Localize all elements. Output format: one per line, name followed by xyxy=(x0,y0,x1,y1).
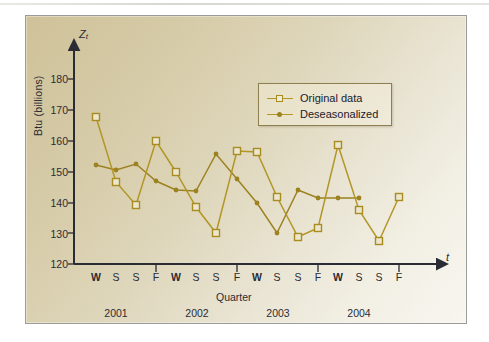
series-original-data-markers xyxy=(93,114,403,245)
x-tick-label: S xyxy=(288,271,308,283)
figure-page: Btu (billions) Zt t 180 170 160 150 140 … xyxy=(0,0,489,342)
legend-entry-deseasonalized: Deseasonalized xyxy=(267,106,378,122)
x-tick-label: F xyxy=(227,271,247,283)
x-tick-label: F xyxy=(389,271,409,283)
x-tick-label: S xyxy=(369,271,389,283)
year-label: 2004 xyxy=(329,307,389,319)
x-tick-label: S xyxy=(106,271,126,283)
year-label: 2003 xyxy=(248,307,308,319)
chart-panel: Btu (billions) Zt t 180 170 160 150 140 … xyxy=(25,15,467,324)
x-tick-label: S xyxy=(186,271,206,283)
legend-entry-original-data: Original data xyxy=(267,90,362,106)
year-label: 2002 xyxy=(167,307,227,319)
x-tick-label: W xyxy=(86,271,106,283)
x-tick-label: S xyxy=(206,271,226,283)
year-label: 2001 xyxy=(86,307,146,319)
legend-label: Original data xyxy=(300,92,362,104)
x-tick-label: S xyxy=(126,271,146,283)
x-tick-label: W xyxy=(166,271,186,283)
x-tick-label: S xyxy=(267,271,287,283)
filled-dot-marker-icon xyxy=(267,109,293,120)
x-axis-title: Quarter xyxy=(216,291,252,303)
series-deseasonalized-markers xyxy=(94,152,362,236)
page-top-rule xyxy=(0,3,489,5)
x-tick-label: S xyxy=(349,271,369,283)
x-tick-label: F xyxy=(308,271,328,283)
x-tick-label: W xyxy=(328,271,348,283)
series-original-data-line xyxy=(96,117,399,241)
open-square-marker-icon xyxy=(267,93,293,104)
chart-legend: Original data Deseasonalized xyxy=(258,83,392,126)
legend-label: Deseasonalized xyxy=(300,108,378,120)
x-tick-label: F xyxy=(146,271,166,283)
x-tick-label: W xyxy=(247,271,267,283)
